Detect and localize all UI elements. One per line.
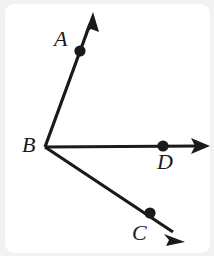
ray-ba-line [45, 24, 90, 147]
ray-bd-line [45, 146, 199, 147]
geometry-canvas [0, 0, 214, 256]
point-label-b: B [22, 134, 35, 156]
geometry-figure: A B C D [0, 0, 214, 256]
ray-bd [45, 138, 210, 154]
point-label-c: C [132, 222, 147, 244]
point-c-dot [144, 207, 155, 218]
ray-bc-arrowhead [164, 234, 185, 246]
ray-bc-line [45, 147, 173, 232]
point-label-a: A [54, 28, 67, 50]
ray-ba-arrowhead [85, 12, 99, 33]
point-a-dot [74, 45, 85, 56]
point-label-d: D [157, 151, 173, 173]
